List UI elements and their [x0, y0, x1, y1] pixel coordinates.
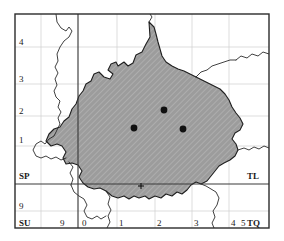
- grid-square-label-tl: TL: [247, 171, 259, 181]
- x-tick-label-0: 0: [82, 218, 87, 228]
- y-tick-label-9: 9: [19, 201, 24, 211]
- distribution-map-figure: 4 3 2 1 9 0 1 2 3 4 5 SP SU TL TQ 9: [0, 0, 284, 241]
- x-tick-label-4: 4: [231, 218, 236, 228]
- y-tick-label-2: 2: [19, 106, 24, 116]
- x-tick-label-9: 9: [60, 218, 65, 228]
- y-tick-label-4: 4: [19, 37, 24, 47]
- record-point: [180, 126, 187, 133]
- x-tick-label-1: 1: [119, 218, 124, 228]
- x-tick-label-2: 2: [157, 218, 162, 228]
- map-canvas: 4 3 2 1 9 0 1 2 3 4 5 SP SU TL TQ 9: [0, 0, 284, 241]
- record-point: [131, 125, 138, 132]
- y-tick-label-1: 1: [19, 135, 24, 145]
- grid-square-label-tq: TQ: [247, 218, 260, 228]
- x-tick-label-5: 5: [241, 218, 246, 228]
- y-tick-label-3: 3: [19, 74, 24, 84]
- grid-square-label-su: SU: [19, 218, 31, 228]
- grid-square-label-sp: SP: [19, 171, 30, 181]
- record-point: [161, 107, 168, 114]
- x-tick-label-3: 3: [194, 218, 199, 228]
